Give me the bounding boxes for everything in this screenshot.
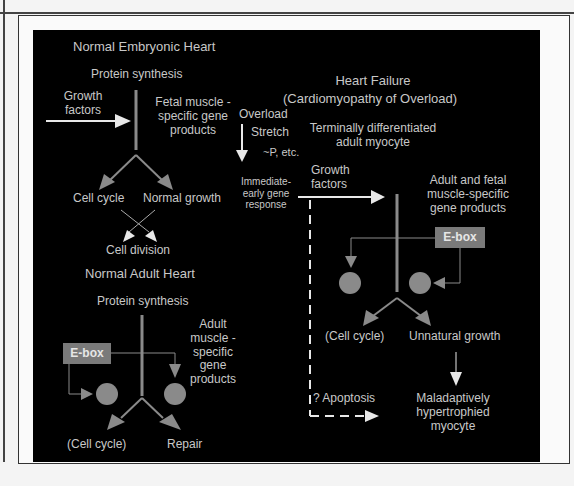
page-border-top — [0, 12, 574, 14]
failure-circle-right-icon — [409, 272, 431, 294]
adult-circle-right-icon — [164, 383, 186, 405]
failure-circle-left-icon — [339, 272, 361, 294]
adult-circle-left-icon — [96, 383, 118, 405]
diagram-panel: Normal Embryonic Heart Protein synthesis… — [33, 30, 540, 462]
page-border-left — [3, 0, 5, 462]
growth-factors-arrow-icon — [115, 114, 131, 128]
diagram-arrows — [33, 30, 540, 462]
